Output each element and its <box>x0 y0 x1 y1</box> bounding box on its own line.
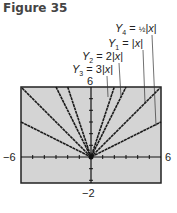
origin-dot <box>89 155 94 160</box>
graph-screen <box>0 0 177 213</box>
